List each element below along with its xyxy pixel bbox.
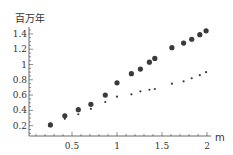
x-axis-unit-label: m bbox=[215, 132, 225, 143]
large-data-point bbox=[114, 80, 119, 85]
large-data-point bbox=[129, 71, 134, 76]
small-data-point bbox=[77, 113, 79, 115]
x-tick-label: 0.5 bbox=[65, 141, 80, 151]
large-data-point bbox=[197, 32, 202, 37]
small-data-point bbox=[64, 118, 66, 120]
large-data-point bbox=[152, 56, 157, 61]
small-data-point bbox=[199, 74, 201, 76]
y-axis-unit-label: 百万年 bbox=[15, 12, 45, 24]
small-data-point bbox=[104, 101, 106, 103]
large-data-point bbox=[62, 113, 67, 118]
small-data-point bbox=[139, 90, 141, 92]
large-data-point bbox=[169, 45, 174, 50]
small-data-point bbox=[90, 108, 92, 110]
y-tick-label: 0.6 bbox=[13, 90, 28, 100]
y-tick-label: 0.4 bbox=[13, 105, 28, 115]
large-data-point bbox=[181, 40, 186, 45]
y-tick-label: 0.2 bbox=[13, 121, 27, 131]
small-data-point bbox=[154, 88, 156, 90]
y-tick-label: 0.8 bbox=[13, 75, 28, 85]
small-data-point bbox=[130, 93, 132, 95]
large-data-point bbox=[204, 28, 209, 33]
x-tick-label: 2 bbox=[204, 141, 210, 151]
small-data-point bbox=[205, 71, 207, 73]
axes: 0.511.520.20.40.60.811.21.4 bbox=[13, 27, 211, 151]
scatter-chart: 0.511.520.20.40.60.811.21.4 百万年 m bbox=[0, 0, 233, 155]
small-data-point bbox=[116, 96, 118, 98]
small-data-point bbox=[148, 89, 150, 91]
large-data-point bbox=[76, 107, 81, 112]
y-tick-label: 1.2 bbox=[13, 44, 27, 54]
large-data-point bbox=[103, 93, 108, 98]
small-data-point bbox=[191, 77, 193, 79]
y-tick-label: 1.4 bbox=[13, 29, 28, 39]
large-data-point bbox=[88, 102, 93, 107]
x-tick-label: 1.5 bbox=[155, 141, 170, 151]
large-data-point bbox=[138, 66, 143, 71]
data-points bbox=[48, 28, 209, 127]
y-tick-label: 1 bbox=[21, 60, 27, 70]
small-data-point bbox=[183, 80, 185, 82]
x-tick-label: 1 bbox=[114, 141, 120, 151]
large-data-point bbox=[147, 60, 152, 65]
small-data-point bbox=[171, 83, 173, 85]
large-data-point bbox=[189, 37, 194, 42]
large-data-point bbox=[48, 122, 53, 127]
